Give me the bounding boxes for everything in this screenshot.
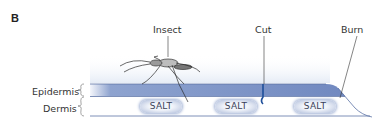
- dermis-brace: [78, 97, 84, 116]
- burn-leader-line: [340, 36, 357, 98]
- salt-deposit-1: SALT: [140, 100, 182, 113]
- salt-deposit-2: SALT: [215, 100, 257, 113]
- salt-deposit-3: SALT: [294, 100, 336, 113]
- epidermis-brace: [78, 84, 84, 96]
- atmosphere-shade: [90, 55, 330, 83]
- epidermis-layer: [90, 84, 345, 96]
- burn-edge: [338, 88, 372, 117]
